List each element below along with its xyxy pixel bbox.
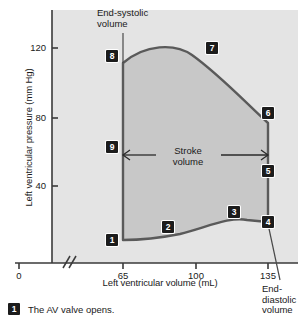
x-tick-label-100: 100 — [182, 270, 210, 281]
annotation-stroke-volume: Stroke volume — [158, 146, 218, 167]
step-marker-6[interactable]: 6 — [262, 107, 274, 119]
caption-text: The AV valve opens. — [28, 304, 114, 315]
step-marker-2[interactable]: 2 — [162, 221, 174, 233]
step-marker-7[interactable]: 7 — [206, 42, 218, 54]
x-tick-label-65: 65 — [110, 270, 136, 281]
y-axis-title: Left ventricular pressure (mm Hg) — [23, 58, 34, 218]
y-tick-label-40: 40 — [14, 180, 46, 191]
figure-caption: 1 The AV valve opens. — [8, 303, 114, 315]
step-marker-4[interactable]: 4 — [262, 216, 274, 228]
step-marker-3[interactable]: 3 — [228, 206, 240, 218]
x-axis-title: Left ventricular volume (mL) — [60, 277, 260, 288]
y-tick-label-120: 120 — [14, 42, 46, 53]
x-tick-label-0: 0 — [9, 270, 29, 281]
annotation-end-systolic-volume: End-systolic volume — [97, 8, 148, 29]
pv-loop-figure: Left ventricular pressure (mm Hg) Left v… — [0, 0, 302, 328]
caption-step-marker: 1 — [8, 303, 20, 315]
step-marker-9[interactable]: 9 — [106, 141, 118, 153]
step-marker-1[interactable]: 1 — [106, 234, 118, 246]
x-tick-label-135: 135 — [254, 270, 282, 281]
annotation-end-diastolic-volume: End- diastolic volume — [262, 284, 302, 316]
step-marker-8[interactable]: 8 — [106, 50, 118, 62]
y-tick-label-80: 80 — [14, 112, 46, 123]
step-marker-5[interactable]: 5 — [262, 165, 274, 177]
